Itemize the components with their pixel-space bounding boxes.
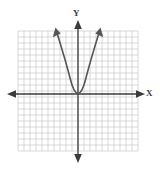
x-axis-label: X [146, 89, 153, 98]
coordinate-plane-svg [0, 0, 160, 169]
y-axis-arrow-bottom [74, 154, 82, 163]
y-axis-arrow-top [74, 20, 82, 29]
x-axis-arrow-right [136, 90, 145, 98]
x-axis-arrow-left [7, 90, 16, 98]
graph-figure: X Y [0, 0, 160, 169]
y-axis-label: Y [73, 9, 80, 18]
